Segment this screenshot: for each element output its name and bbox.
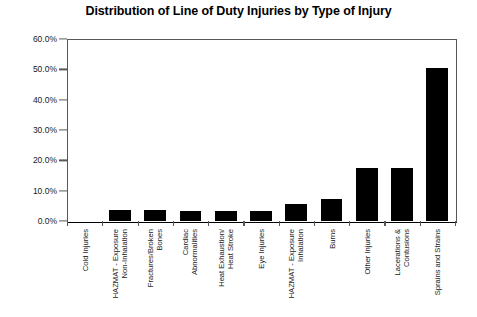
x-axis-tick-label: Lacerations & Contusions <box>393 229 411 317</box>
y-axis-tick-mark <box>59 160 67 161</box>
y-axis-tick-mark <box>59 69 67 70</box>
x-axis-tick-label: Burns <box>327 229 336 317</box>
x-axis-tick-label: Other Injuries <box>362 229 371 317</box>
x-axis-tick-mark <box>384 221 385 226</box>
x-axis-label-slot: Cardiac Abnormalities <box>173 229 208 317</box>
x-axis-tick-mark <box>173 221 174 226</box>
x-axis-tick-label: Cardiac Abnormalities <box>181 229 199 317</box>
x-axis-tick-mark <box>314 221 315 226</box>
bar <box>426 68 448 221</box>
x-axis-ticks <box>67 221 455 227</box>
x-axis-tick-mark <box>279 221 280 226</box>
x-axis-label-slot: Lacerations & Contusions <box>384 229 419 317</box>
y-axis-tick-label: 50.0% <box>33 64 57 74</box>
y-axis-tick-mark <box>59 220 67 221</box>
x-axis-tick-label: HAZMAT - Exposure Inhalation <box>287 229 305 317</box>
bar <box>391 168 413 221</box>
bar <box>144 210 166 221</box>
x-axis-label-slot: Eye Injuries <box>243 229 278 317</box>
y-axis-tick-label: 10.0% <box>33 186 57 196</box>
y-axis-tick-label: 60.0% <box>33 34 57 44</box>
x-axis-label-slot: HAZMAT - Exposure Non-Inhalation <box>102 229 137 317</box>
x-axis-tick-mark <box>67 221 68 226</box>
x-axis-labels: Cold InjuriesHAZMAT - Exposure Non-Inhal… <box>67 229 455 317</box>
y-axis-ticks <box>59 39 67 221</box>
x-axis-label-slot: Cold Injuries <box>67 229 102 317</box>
bar <box>215 211 237 221</box>
bar <box>180 211 202 221</box>
y-axis-tick-mark <box>59 99 67 100</box>
x-axis-tick-label: Heat Exhaustion/ Heat Stroke <box>217 229 235 317</box>
x-axis-tick-label: Fractures/Broken Bones <box>146 229 164 317</box>
x-axis-tick-mark <box>138 221 139 226</box>
x-axis-tick-label: Eye Injuries <box>256 229 265 317</box>
bar-chart: Distribution of Line of Duty Injuries by… <box>0 0 477 317</box>
x-axis-label-slot: Other Injuries <box>349 229 384 317</box>
x-axis-label-slot: Heat Exhaustion/ Heat Stroke <box>208 229 243 317</box>
chart-title: Distribution of Line of Duty Injuries by… <box>0 4 477 18</box>
bar <box>250 211 272 221</box>
y-axis-tick-mark <box>59 190 67 191</box>
x-axis-tick-mark <box>349 221 350 226</box>
x-axis-tick-mark <box>243 221 244 226</box>
x-axis-label-slot: Fractures/Broken Bones <box>138 229 173 317</box>
y-axis-labels: 60.0%50.0%40.0%30.0%20.0%10.0%0.0% <box>0 39 57 221</box>
x-axis-tick-label: HAZMAT - Exposure Non-Inhalation <box>111 229 129 317</box>
y-axis-tick-label: 20.0% <box>33 155 57 165</box>
x-axis-tick-mark <box>102 221 103 226</box>
x-axis-label-slot: Burns <box>314 229 349 317</box>
bars-layer <box>67 39 455 221</box>
x-axis-tick-mark <box>455 221 456 226</box>
x-axis-tick-label: Cold Injuries <box>80 229 89 317</box>
x-axis-tick-mark <box>208 221 209 226</box>
bar <box>109 210 131 221</box>
bar <box>321 199 343 221</box>
y-axis-tick-label: 40.0% <box>33 95 57 105</box>
y-axis-tick-mark <box>59 38 67 39</box>
y-axis-tick-label: 0.0% <box>38 216 57 226</box>
x-axis-label-slot: HAZMAT - Exposure Inhalation <box>279 229 314 317</box>
x-axis-label-slot: Sprains and Strains <box>420 229 455 317</box>
bar <box>285 204 307 221</box>
y-axis-tick-label: 30.0% <box>33 125 57 135</box>
x-axis-tick-label: Sprains and Strains <box>433 229 442 317</box>
y-axis-tick-mark <box>59 129 67 130</box>
bar <box>356 168 378 221</box>
x-axis-tick-mark <box>420 221 421 226</box>
